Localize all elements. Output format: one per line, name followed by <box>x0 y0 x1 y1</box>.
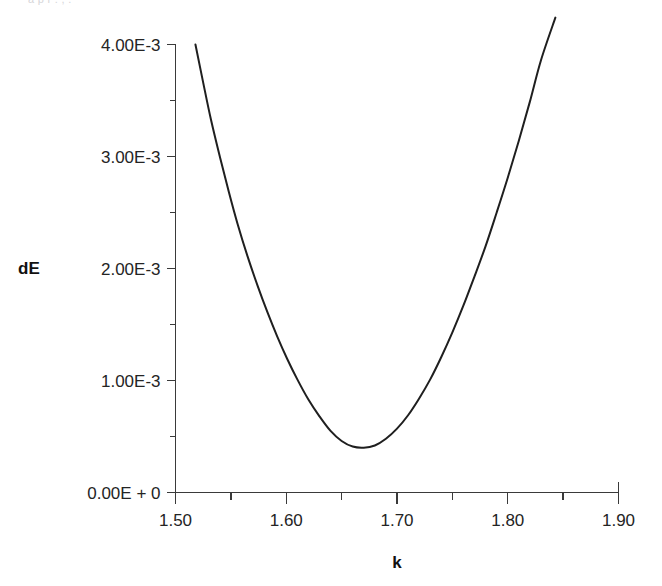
data-series-line-dE <box>195 18 555 448</box>
x-axis-tick-label: 1.90 <box>602 512 635 529</box>
x-axis-title: k <box>392 554 401 571</box>
y-axis-title: dE <box>18 260 40 277</box>
y-axis-tick-label: 1.00E-3 <box>0 372 161 389</box>
x-axis-tick-label: 1.60 <box>270 512 303 529</box>
x-axis-tick-label: 1.80 <box>491 512 524 529</box>
axes-group <box>167 45 619 493</box>
figure-container: a p r . , . 0.00E + 01.00E-32.00E-33.00E… <box>0 0 662 586</box>
y-axis-tick-label: 0.00E + 0 <box>0 484 161 501</box>
axis-ticks-group <box>167 45 619 504</box>
x-axis-tick-label: 1.50 <box>159 512 192 529</box>
x-axis-tick-label: 1.70 <box>380 512 413 529</box>
y-axis-tick-label: 4.00E-3 <box>0 36 161 53</box>
y-axis-tick-label: 3.00E-3 <box>0 148 161 165</box>
data-curve-group <box>195 18 555 448</box>
